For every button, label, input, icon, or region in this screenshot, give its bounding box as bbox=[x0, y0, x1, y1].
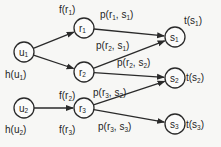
node-weight-u1: h(u1) bbox=[5, 69, 26, 81]
node-s1: s1 bbox=[165, 27, 185, 47]
node-s2: s2 bbox=[165, 68, 185, 88]
node-u1: u1 bbox=[14, 42, 34, 62]
edge-u1-r2 bbox=[34, 55, 74, 68]
node-weight-s2: t(s2) bbox=[186, 72, 204, 84]
node-u2: u2 bbox=[14, 98, 34, 118]
node-weight-r3: f(r3) bbox=[59, 124, 75, 136]
edge-label-r1-s1: p(r1, s1) bbox=[100, 9, 133, 21]
node-weight-r1: f(r1) bbox=[59, 4, 75, 16]
edge-u1-r1 bbox=[33, 32, 74, 48]
edge-label-r2-s1: p(r2, s1) bbox=[96, 40, 129, 52]
edge-label-r3-s3: p(r3, s3) bbox=[98, 121, 131, 133]
node-s3: s3 bbox=[165, 114, 185, 134]
node-r3: r3 bbox=[74, 98, 94, 118]
edge-label-r2-s2: p(r2, s2) bbox=[117, 57, 150, 69]
edge-label-r3-s2: p(r3, s2) bbox=[93, 87, 126, 99]
node-weight-s3: t(s3) bbox=[186, 119, 204, 131]
node-weight-u2: h(u2) bbox=[5, 124, 26, 136]
edge-r2-s2 bbox=[94, 73, 164, 78]
node-r2: r2 bbox=[74, 62, 94, 82]
edge-r1-s1 bbox=[94, 29, 164, 36]
bipartite-flow-diagram: u1u2r1r2r3s1s2s3 p(r1, s1)p(r2, s1)p(r2,… bbox=[0, 0, 221, 147]
node-weight-s1: t(s1) bbox=[184, 15, 202, 27]
node-weight-r2: f(r2) bbox=[59, 90, 75, 102]
node-r1: r1 bbox=[74, 18, 94, 38]
